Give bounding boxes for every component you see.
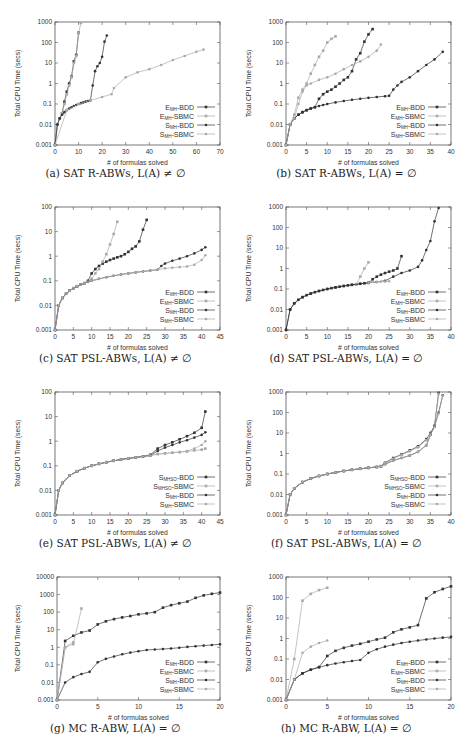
x-tick-label: 0 bbox=[284, 333, 288, 340]
series-e-mh-bdd bbox=[285, 585, 453, 701]
y-tick-label: 1 bbox=[279, 265, 283, 272]
x-tick-label: 35 bbox=[427, 333, 435, 340]
x-tick-label: 25 bbox=[386, 148, 394, 155]
legend-label: SMH-BDD bbox=[165, 307, 194, 316]
chart-panel-e: 0510152025303540450.0010.010.1110100# of… bbox=[0, 370, 231, 555]
y-tick-label: 1 bbox=[48, 438, 52, 445]
x-tick-label: 15 bbox=[344, 148, 352, 155]
series-e-mh-bdd bbox=[54, 219, 148, 332]
x-tick-label: 10 bbox=[324, 518, 332, 525]
x-tick-label: 15 bbox=[176, 703, 184, 710]
x-tick-label: 25 bbox=[386, 333, 394, 340]
legend-label: SMH-SBMC bbox=[391, 316, 425, 325]
x-tick-label: 25 bbox=[143, 518, 151, 525]
x-axis-label: # of formulas solved bbox=[338, 714, 399, 721]
chart-svg: 05101520253035400.0010.010.11101001000# … bbox=[231, 0, 462, 185]
legend-label: EMH-BDD bbox=[165, 289, 194, 298]
x-tick-label: 5 bbox=[325, 703, 329, 710]
x-tick-label: 0 bbox=[55, 703, 59, 710]
y-tick-label: 100 bbox=[272, 594, 283, 601]
y-tick-label: 10 bbox=[276, 614, 284, 621]
chart-svg: 051015200.0010.010.11101001000# of formu… bbox=[231, 555, 462, 739]
y-tick-label: 0.1 bbox=[43, 277, 52, 284]
legend-label: SMH-BDD bbox=[396, 307, 425, 316]
chart-panel-f: 05101520253035400.0010.010.11101001000# … bbox=[231, 370, 462, 555]
chart-svg: 0102030405060700.0010.010.11101001000# o… bbox=[0, 0, 231, 185]
legend: EMH-BDDEMH-SBMCSMH-BDDSMH-SBMC bbox=[391, 104, 446, 140]
legend-label: SMHSO-BDD bbox=[159, 474, 194, 483]
x-tick-label: 25 bbox=[386, 518, 394, 525]
x-tick-label: 40 bbox=[447, 518, 455, 525]
series-e-mh-sbmc bbox=[285, 586, 329, 701]
x-tick-label: 10 bbox=[88, 333, 96, 340]
x-tick-label: 0 bbox=[284, 703, 288, 710]
y-tick-label: 1000 bbox=[40, 591, 55, 598]
x-tick-label: 20 bbox=[365, 518, 373, 525]
legend-label: SMH-SBMC bbox=[160, 316, 194, 325]
x-tick-label: 40 bbox=[198, 518, 206, 525]
x-tick-label: 30 bbox=[122, 148, 130, 155]
x-tick-label: 15 bbox=[106, 518, 114, 525]
y-tick-label: 100 bbox=[41, 39, 52, 46]
x-axis-label: # of formulas solved bbox=[338, 344, 399, 351]
legend-label: SMH-BDD bbox=[396, 492, 425, 501]
y-tick-label: 0.001 bbox=[267, 326, 284, 333]
legend-label: SMH-SBMC bbox=[391, 501, 425, 510]
y-tick-label: 0.01 bbox=[270, 306, 283, 313]
chart-caption: (f) SAT PSL-ABWs, L(A) = ∅ bbox=[231, 537, 462, 549]
y-tick-label: 1 bbox=[279, 80, 283, 87]
series-s-mh-bdd bbox=[54, 34, 108, 146]
legend-label: SMH-SBMC bbox=[160, 686, 194, 695]
chart-svg: 051015200.0010.010.1110100100010000# of … bbox=[0, 555, 231, 739]
y-tick-label: 100 bbox=[272, 39, 283, 46]
y-tick-label: 100 bbox=[43, 608, 54, 615]
x-tick-label: 15 bbox=[406, 703, 414, 710]
x-tick-label: 50 bbox=[169, 148, 177, 155]
legend: EMH-BDDEMH-SBMCSMH-BDDSMH-SBMC bbox=[391, 289, 446, 325]
y-tick-label: 0.01 bbox=[270, 676, 283, 683]
y-tick-label: 0.001 bbox=[38, 696, 55, 703]
y-tick-label: 0.001 bbox=[36, 141, 53, 148]
x-axis-label: # of formulas solved bbox=[107, 529, 168, 536]
y-tick-label: 0.001 bbox=[36, 511, 53, 518]
chart-panel-b: 05101520253035400.0010.010.11101001000# … bbox=[231, 0, 462, 185]
legend-label: SMH-SBMC bbox=[391, 686, 425, 695]
chart-caption: (g) MC R-ABW, L(A) = ∅ bbox=[0, 722, 231, 734]
x-tick-label: 45 bbox=[216, 333, 224, 340]
chart-panel-g: 051015200.0010.010.1110100100010000# of … bbox=[0, 555, 231, 739]
y-tick-label: 10000 bbox=[36, 573, 54, 580]
legend-label: SMH-SBMC bbox=[160, 501, 194, 510]
y-axis-label: Total CPU Time (secs) bbox=[245, 420, 253, 488]
y-tick-label: 1000 bbox=[269, 573, 284, 580]
x-tick-label: 5 bbox=[305, 148, 309, 155]
y-axis-label: Total CPU Time (secs) bbox=[14, 420, 22, 488]
legend-label: EMH-BDD bbox=[396, 104, 425, 113]
y-tick-label: 0.001 bbox=[36, 326, 53, 333]
legend: EMH-BDDEMH-SBMCSMH-BDDSMH-SBMC bbox=[160, 104, 215, 140]
y-axis-label: Total CPU Time (secs) bbox=[14, 235, 22, 303]
legend-label: SMH-BDD bbox=[165, 492, 194, 501]
series-s-mh-sbmc bbox=[56, 641, 75, 702]
x-tick-label: 10 bbox=[135, 703, 143, 710]
y-tick-label: 1 bbox=[279, 635, 283, 642]
series-s-mh-sbmc bbox=[285, 43, 382, 146]
x-tick-label: 10 bbox=[365, 703, 373, 710]
x-tick-label: 45 bbox=[216, 518, 224, 525]
y-tick-label: 10 bbox=[276, 429, 284, 436]
chart-panel-h: 051015200.0010.010.11101001000# of formu… bbox=[231, 555, 462, 739]
x-axis-label: # of formulas solved bbox=[107, 159, 168, 166]
x-tick-label: 5 bbox=[72, 518, 76, 525]
x-tick-label: 35 bbox=[427, 518, 435, 525]
chart-svg: 05101520253035400.0010.010.11101001000# … bbox=[231, 185, 462, 370]
plot-frame bbox=[286, 207, 451, 330]
plot-frame bbox=[55, 207, 220, 330]
y-tick-label: 0.01 bbox=[41, 679, 54, 686]
chart-caption: (c) SAT PSL-ABWs, L(A) ≠ ∅ bbox=[0, 352, 231, 364]
y-tick-label: 0.1 bbox=[274, 100, 283, 107]
y-tick-label: 1 bbox=[48, 80, 52, 87]
y-axis-label: Total CPU Time (secs) bbox=[245, 605, 253, 673]
x-tick-label: 15 bbox=[106, 333, 114, 340]
y-tick-label: 1 bbox=[279, 450, 283, 457]
chart-svg: 0510152025303540450.0010.010.1110100# of… bbox=[0, 370, 231, 555]
x-tick-label: 10 bbox=[324, 148, 332, 155]
